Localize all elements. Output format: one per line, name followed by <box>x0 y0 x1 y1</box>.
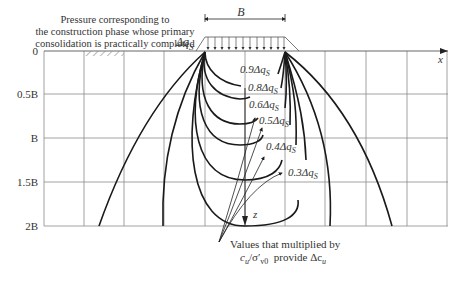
y-tick-0-5b: 0.5B <box>17 88 38 100</box>
multiplier-note: Values that multiplied by cu/σ′v0 provid… <box>222 238 372 268</box>
z-axis-arrow-icon <box>242 216 248 226</box>
contour-label-0-9: 0.9ΔqS <box>240 63 270 78</box>
load-diagram <box>196 14 299 51</box>
y-tick-0: 0 <box>33 45 39 57</box>
load-label: ΔqS <box>175 35 194 52</box>
y-tick-2b: 2B <box>25 220 38 232</box>
ground-hatch <box>85 51 124 56</box>
multiplier-note-line1: Values that multiplied by <box>230 238 372 251</box>
x-axis-label: x <box>437 53 443 65</box>
contour-label-0-4: 0.4ΔqS <box>266 140 296 155</box>
multiplier-note-line2: cu/σ′v0 provide Δcu <box>240 251 372 268</box>
contour-label-0-5: 0.5ΔqS <box>259 114 289 129</box>
stress-isobars <box>99 52 392 226</box>
y-tick-b: B <box>31 132 38 144</box>
grid <box>44 51 448 226</box>
y-tick-1-5b: 1.5B <box>17 176 38 188</box>
contour-label-0-6: 0.6ΔqS <box>249 98 279 113</box>
contour-label-0-3: 0.3ΔqS <box>288 166 318 181</box>
width-label: B <box>237 5 245 19</box>
z-axis-label: z <box>252 208 258 220</box>
